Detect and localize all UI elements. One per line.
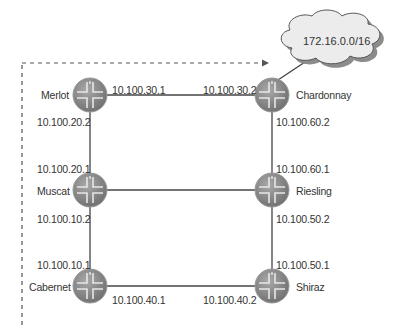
router-icon-shiraz	[255, 269, 289, 303]
link-chardonnay-cloud	[278, 62, 305, 80]
ip-label-chardonnay-riesling: 10.100.60.2	[276, 116, 329, 128]
ip-label-cabernet-muscat: 10.100.10.1	[37, 259, 90, 271]
router-name-riesling: Riesling	[296, 185, 332, 197]
ip-label-muscat-cabernet: 10.100.10.2	[37, 213, 90, 225]
router-icon-cabernet	[73, 269, 107, 303]
router-name-chardonnay: Chardonnay	[296, 89, 351, 101]
ip-label-merlot-muscat: 10.100.20.2	[37, 116, 90, 128]
router-name-muscat: Muscat	[37, 185, 70, 197]
router-icon-muscat	[73, 173, 107, 207]
router-name-cabernet: Cabernet	[29, 281, 71, 293]
ip-label-riesling-chardonnay: 10.100.60.1	[276, 163, 329, 175]
router-name-merlot: Merlot	[41, 89, 69, 101]
router-icon-riesling	[255, 173, 289, 207]
ip-label-shiraz-riesling: 10.100.50.1	[276, 259, 329, 271]
ip-label-muscat-merlot: 10.100.20.1	[37, 163, 90, 175]
cloud-label: 172.16.0.0/16	[303, 35, 370, 47]
ip-label-chardonnay-merlot: 10.100.30.2	[203, 84, 256, 96]
ip-label-cabernet-shiraz: 10.100.40.1	[112, 294, 165, 306]
ip-label-shiraz-cabernet: 10.100.40.2	[203, 294, 256, 306]
ip-label-merlot-chardonnay: 10.100.30.1	[112, 84, 165, 96]
router-icon-merlot	[73, 78, 107, 112]
ip-label-riesling-shiraz: 10.100.50.2	[276, 213, 329, 225]
router-name-shiraz: Shiraz	[296, 281, 325, 293]
router-icon-chardonnay	[255, 78, 289, 112]
